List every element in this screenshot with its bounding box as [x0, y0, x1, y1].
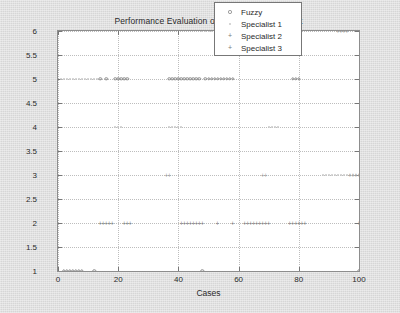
- x-tick-label: 100: [339, 275, 379, 284]
- data-point: [78, 78, 80, 80]
- data-point: [63, 78, 65, 80]
- data-point: [271, 126, 273, 128]
- data-point: [274, 126, 276, 128]
- data-point: [263, 173, 268, 178]
- data-point: [98, 77, 101, 80]
- x-tick-mark: [299, 267, 300, 271]
- y-tick-label: 4.5: [0, 99, 37, 108]
- x-tick-mark: [118, 31, 119, 35]
- y-tick-label: 4: [0, 123, 37, 132]
- x-tick-label: 60: [219, 275, 259, 284]
- data-point: [69, 78, 71, 80]
- data-point: [334, 174, 336, 176]
- legend-item-label: Fuzzy: [241, 8, 262, 17]
- data-point: [340, 174, 342, 176]
- x-tick-label: 80: [279, 275, 319, 284]
- data-point: [128, 221, 133, 226]
- gridline-horizontal: [58, 199, 359, 200]
- y-tick-label: 6: [0, 27, 37, 36]
- data-point: [171, 126, 173, 128]
- data-point: [72, 78, 74, 80]
- legend-item-label: Specialist 2: [241, 32, 282, 41]
- y-tick-label: 5: [0, 75, 37, 84]
- data-point: [60, 78, 62, 80]
- gridline-horizontal: [58, 127, 359, 128]
- data-point: [174, 126, 176, 128]
- gridline-vertical: [58, 31, 59, 271]
- gridline-horizontal: [58, 151, 359, 152]
- legend-circle-icon: [219, 6, 241, 18]
- data-point: [328, 174, 330, 176]
- data-point: [66, 78, 68, 80]
- legend-item[interactable]: +Specialist 2: [215, 30, 301, 42]
- data-point: [302, 221, 307, 226]
- data-point: [87, 78, 89, 80]
- data-point: [331, 174, 333, 176]
- legend-item[interactable]: Fuzzy: [215, 6, 301, 18]
- data-point: [268, 126, 270, 128]
- data-point: [75, 78, 77, 80]
- data-point: [198, 77, 201, 80]
- y-tick-label: 5.5: [0, 51, 37, 60]
- y-tick-label: 3: [0, 171, 37, 180]
- data-point: [325, 174, 327, 176]
- data-point: [200, 221, 205, 226]
- data-point: [177, 126, 179, 128]
- data-point: [90, 78, 92, 80]
- gridline-horizontal: [58, 175, 359, 176]
- data-point: [81, 78, 83, 80]
- x-tick-mark: [58, 31, 59, 35]
- plot-frame: [57, 30, 360, 272]
- legend-plus-icon: +: [219, 42, 241, 54]
- legend-plus-icon: +: [219, 30, 241, 42]
- chart-legend: FuzzySpecialist 1+Specialist 2+Specialis…: [214, 2, 302, 56]
- data-point: [357, 173, 360, 178]
- data-point: [167, 173, 172, 178]
- data-point: [230, 221, 235, 226]
- legend-item[interactable]: +Specialist 3: [215, 42, 301, 54]
- y-tick-label: 2.5: [0, 195, 37, 204]
- legend-item-label: Specialist 1: [241, 20, 282, 29]
- data-point: [266, 221, 271, 226]
- data-point: [357, 221, 360, 226]
- gridline-vertical: [118, 31, 119, 271]
- x-tick-mark: [178, 267, 179, 271]
- data-point: [84, 78, 86, 80]
- data-point: [114, 126, 116, 128]
- data-point: [297, 77, 300, 80]
- data-point: [344, 31, 349, 34]
- data-point: [96, 78, 98, 80]
- data-point: [337, 174, 339, 176]
- data-point: [201, 269, 204, 271]
- x-tick-label: 20: [98, 275, 138, 284]
- data-point: [357, 269, 359, 271]
- data-point: [126, 77, 129, 80]
- data-point: [117, 126, 119, 128]
- data-point: [343, 174, 345, 176]
- x-tick-mark: [239, 267, 240, 271]
- legend-item-label: Specialist 3: [241, 44, 282, 53]
- legend-item[interactable]: Specialist 1: [215, 18, 301, 30]
- data-point: [104, 77, 107, 80]
- data-point: [322, 174, 324, 176]
- x-tick-mark: [118, 267, 119, 271]
- y-tick-label: 1.5: [0, 243, 37, 252]
- data-point: [180, 126, 182, 128]
- data-point: [215, 221, 220, 226]
- y-tick-label: 1: [0, 267, 37, 276]
- data-point: [277, 126, 279, 128]
- gridline-horizontal: [58, 55, 359, 56]
- data-point: [92, 269, 95, 271]
- gridline-vertical: [178, 31, 179, 271]
- x-tick-label: 0: [38, 275, 78, 284]
- gridline-horizontal: [58, 103, 359, 104]
- plot-area: [58, 31, 359, 271]
- gridline-vertical: [299, 31, 300, 271]
- data-point: [168, 126, 170, 128]
- gridline-horizontal: [58, 247, 359, 248]
- legend-dot-icon: [219, 18, 241, 30]
- x-tick-mark: [178, 31, 179, 35]
- data-point: [80, 269, 83, 271]
- data-point: [120, 126, 122, 128]
- gridline-vertical: [239, 31, 240, 271]
